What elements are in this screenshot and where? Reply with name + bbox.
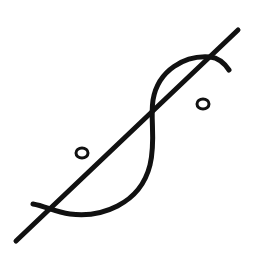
circle-left	[76, 148, 88, 158]
circle-right	[197, 99, 209, 109]
symbol-glyph	[0, 0, 262, 261]
symbol-canvas: Symbol: diagonal straight line crossed b…	[0, 0, 262, 261]
s-curve	[33, 57, 229, 215]
